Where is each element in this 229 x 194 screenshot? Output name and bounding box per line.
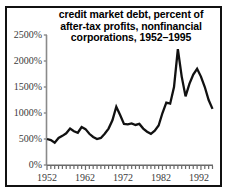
x-axis-tick-marks (47, 166, 213, 170)
x-axis (47, 165, 214, 170)
chart-plot-area (0, 0, 229, 194)
y-axis (44, 35, 47, 165)
data-series-line (47, 49, 213, 143)
chart-container: credit market debt, percent of after-tax… (0, 0, 229, 194)
